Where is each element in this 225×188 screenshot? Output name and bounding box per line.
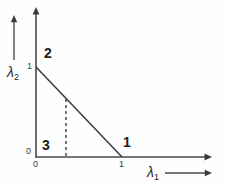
y-tick-label-1: 1	[27, 62, 32, 71]
region-label-3: 3	[42, 138, 50, 152]
lambda2-direction-arrowhead	[11, 15, 17, 22]
y-tick-label-0: 0	[26, 147, 31, 156]
y-axis-arrowhead	[33, 7, 40, 15]
lambda2-subscript: 2	[14, 72, 19, 82]
lambda2-glyph: λ	[7, 64, 14, 80]
x-axis-arrowhead	[205, 154, 213, 161]
x-tick-label-1: 1	[119, 160, 124, 169]
lambda1-glyph: λ	[147, 164, 154, 180]
region-label-2: 2	[44, 46, 52, 60]
lambda1-axis-label: λ1	[147, 165, 159, 179]
lambda1-subscript: 1	[154, 172, 159, 182]
lambda2-axis-label: λ2	[7, 65, 19, 79]
lambda-region-figure: 1 2 3 0 1 0 1 λ2 λ1	[0, 0, 225, 188]
lambda1-direction-arrowhead	[205, 170, 212, 176]
x-tick-label-0: 0	[33, 160, 38, 169]
region-label-1: 1	[123, 135, 131, 149]
